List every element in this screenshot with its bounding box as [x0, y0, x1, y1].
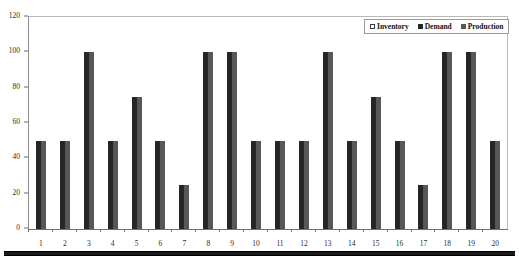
bar-production — [400, 141, 405, 229]
x-axis-tick: 5 — [125, 232, 149, 248]
bar-group — [244, 17, 268, 229]
x-axis-tick-label: 9 — [230, 239, 234, 248]
y-axis: 020406080100120 — [0, 16, 26, 230]
legend-swatch-icon — [370, 24, 375, 29]
x-axis-tick-mark — [52, 229, 53, 232]
y-axis-tick-mark — [24, 157, 28, 158]
x-axis-tick: 9 — [220, 232, 244, 248]
x-axis-tick-mark — [28, 229, 29, 232]
x-axis-tick-label: 18 — [444, 239, 452, 248]
x-axis-tick: 15 — [364, 232, 388, 248]
bar-group — [125, 17, 149, 229]
bar-group — [388, 17, 412, 229]
legend-item-inventory[interactable]: Inventory — [370, 22, 409, 31]
bar-production — [232, 52, 237, 229]
y-axis-tick-label: 0 — [16, 224, 20, 232]
x-axis-tick-mark — [291, 229, 292, 232]
x-axis-tick: 3 — [77, 232, 101, 248]
x-axis-tick-label: 10 — [252, 239, 260, 248]
x-axis-tick-label: 19 — [468, 239, 476, 248]
bar-production — [137, 97, 142, 230]
bar-group — [412, 17, 436, 229]
y-axis-tick-label: 20 — [13, 189, 21, 197]
bar-production — [184, 185, 189, 229]
x-axis-tick-label: 5 — [135, 239, 139, 248]
x-axis-tick: 4 — [101, 232, 125, 248]
x-axis-tick-label: 14 — [348, 239, 356, 248]
x-axis-tick-label: 8 — [206, 239, 210, 248]
x-axis-tick-mark — [171, 229, 172, 232]
x-axis-tick-label: 13 — [324, 239, 332, 248]
x-axis-tick-mark — [219, 229, 220, 232]
bar-production — [41, 141, 46, 229]
bar-group — [172, 17, 196, 229]
x-axis-tick-label: 20 — [491, 239, 499, 248]
bar-group — [364, 17, 388, 229]
bottom-divider — [4, 251, 515, 256]
bar-production — [89, 52, 94, 229]
x-axis-tick-mark — [458, 229, 459, 232]
y-axis-tick-mark — [24, 86, 28, 87]
bar-production — [256, 141, 261, 229]
bar-chart: 020406080100120 123456789101112131415161… — [0, 0, 519, 260]
x-axis-tick-mark — [363, 229, 364, 232]
x-axis: 1234567891011121314151617181920 — [29, 232, 507, 248]
bars-container — [29, 17, 507, 229]
x-axis-tick-label: 11 — [276, 239, 283, 248]
y-axis-tick-mark — [24, 192, 28, 193]
bar-production — [495, 141, 500, 229]
x-axis-tick-mark — [195, 229, 196, 232]
bar-group — [77, 17, 101, 229]
y-axis-tick-label: 80 — [13, 83, 21, 91]
y-axis-tick-label: 40 — [13, 154, 21, 162]
x-axis-tick-label: 15 — [372, 239, 380, 248]
bar-production — [423, 185, 428, 229]
legend-label: Production — [468, 22, 504, 31]
bar-production — [65, 141, 70, 229]
bar-group — [483, 17, 507, 229]
x-axis-tick: 19 — [459, 232, 483, 248]
x-axis-tick-label: 2 — [63, 239, 67, 248]
bar-production — [304, 141, 309, 229]
bar-production — [447, 52, 452, 229]
y-axis-tick-mark — [24, 51, 28, 52]
legend-item-production[interactable]: Production — [461, 22, 504, 31]
x-axis-tick-label: 12 — [300, 239, 308, 248]
x-axis-tick-mark — [243, 229, 244, 232]
x-axis-tick: 11 — [268, 232, 292, 248]
x-axis-tick-mark — [482, 229, 483, 232]
chart-legend: InventoryDemandProduction — [364, 19, 509, 34]
bar-group — [435, 17, 459, 229]
x-axis-tick-mark — [148, 229, 149, 232]
legend-label: Demand — [425, 22, 452, 31]
x-axis-tick: 2 — [53, 232, 77, 248]
x-axis-tick-mark — [124, 229, 125, 232]
bar-production — [208, 52, 213, 229]
legend-item-demand[interactable]: Demand — [418, 22, 452, 31]
legend-label: Inventory — [377, 22, 409, 31]
x-axis-tick: 17 — [412, 232, 436, 248]
x-axis-tick-mark — [434, 229, 435, 232]
x-axis-tick: 18 — [435, 232, 459, 248]
y-axis-tick-label: 100 — [9, 48, 20, 56]
x-axis-tick-label: 1 — [39, 239, 43, 248]
x-axis-tick-mark — [339, 229, 340, 232]
y-axis-tick-mark — [24, 122, 28, 123]
x-axis-tick-label: 16 — [396, 239, 404, 248]
legend-swatch-icon — [461, 24, 466, 29]
x-axis-tick-mark — [411, 229, 412, 232]
bar-production — [113, 141, 118, 229]
y-axis-tick-label: 60 — [13, 118, 21, 126]
x-axis-tick: 13 — [316, 232, 340, 248]
x-axis-tick: 10 — [244, 232, 268, 248]
x-axis-tick: 12 — [292, 232, 316, 248]
legend-swatch-icon — [418, 24, 423, 29]
bar-group — [101, 17, 125, 229]
x-axis-tick-label: 7 — [183, 239, 187, 248]
bar-group — [340, 17, 364, 229]
x-axis-tick: 16 — [388, 232, 412, 248]
bar-group — [459, 17, 483, 229]
x-axis-tick-label: 4 — [111, 239, 115, 248]
x-axis-tick-mark — [315, 229, 316, 232]
bar-production — [280, 141, 285, 229]
